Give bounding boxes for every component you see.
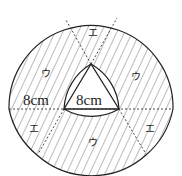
left-radius-label: 8cm bbox=[23, 92, 49, 108]
region-e-label-top: エ bbox=[88, 27, 98, 38]
region-u-label-right: ウ bbox=[131, 71, 141, 82]
geometry-diagram: 8cm 8cm エ ウ ウ エ エ ウ bbox=[0, 0, 182, 176]
region-u-label-bottom: ウ bbox=[88, 137, 98, 148]
triangle-side-label: 8cm bbox=[76, 92, 102, 108]
region-e-label-left: エ bbox=[29, 123, 39, 134]
region-u-label-left: ウ bbox=[41, 68, 51, 79]
region-e-label-right: エ bbox=[145, 123, 155, 134]
